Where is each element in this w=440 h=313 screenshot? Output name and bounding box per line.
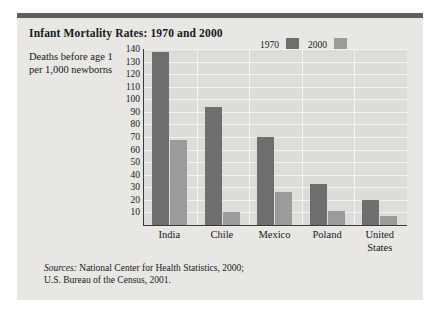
y-tick-label: 10 [131,208,141,217]
y-tick-label: 100 [126,95,140,104]
bar-mexico-2000 [275,192,292,225]
bar-india-2000 [170,140,187,225]
y-tick-label: 50 [131,158,141,167]
page-title: Infant Mortality Rates: 1970 and 2000 [29,27,223,39]
y-axis-label: Deaths before age 1 per 1,000 newborns [29,51,121,76]
y-tick-label: 70 [131,133,141,142]
bar-group [354,49,407,225]
y-tick-label: 120 [126,70,140,79]
y-tick-label: 30 [131,183,141,192]
bar-mexico-1970 [257,137,274,225]
sources-note: Sources: National Center for Health Stat… [44,262,244,286]
y-tick-label: 110 [126,82,140,91]
x-tick-label: Mexico [248,229,301,242]
bar-group [197,49,250,225]
chart-figure: Infant Mortality Rates: 1970 and 2000 De… [17,13,423,300]
bar-group [249,49,302,225]
bar-group [302,49,355,225]
bar-poland-2000 [328,211,345,225]
sources-text-1: National Center for Health Statistics, 2… [77,263,244,273]
y-axis-ticks: 140130120110100908070605040302010 [120,49,143,226]
bar-poland-1970 [310,184,327,225]
bar-group [144,49,197,225]
sources-line-1: Sources: National Center for Health Stat… [44,262,244,274]
legend-label-2000: 2000 [308,40,327,50]
top-rule-divider [17,13,423,18]
y-tick-label: 130 [126,57,140,66]
x-axis-categories: IndiaChileMexicoPolandUnitedStates [143,229,430,259]
legend-label-1970: 1970 [260,40,279,50]
bar-chile-1970 [205,107,222,225]
bar-united-states-1970 [362,200,379,225]
sources-lead: Sources: [44,263,77,273]
plot-area [143,49,407,226]
bar-chile-2000 [223,212,240,225]
y-tick-label: 80 [131,120,141,129]
x-tick-label: India [143,229,196,242]
y-tick-label: 60 [131,145,141,154]
y-tick-label: 140 [126,45,140,54]
bar-united-states-2000 [380,216,397,225]
x-tick-label: Poland [301,229,354,242]
x-tick-label: UnitedStates [353,229,406,254]
plot-area-wrapper: 140130120110100908070605040302010 [120,49,407,226]
sources-line-2: U.S. Bureau of the Census, 2001. [44,274,244,286]
y-tick-label: 40 [131,170,141,179]
y-tick-label: 20 [131,195,141,204]
y-tick-label: 90 [131,107,141,116]
x-tick-label: Chile [196,229,249,242]
bar-india-1970 [152,52,169,225]
